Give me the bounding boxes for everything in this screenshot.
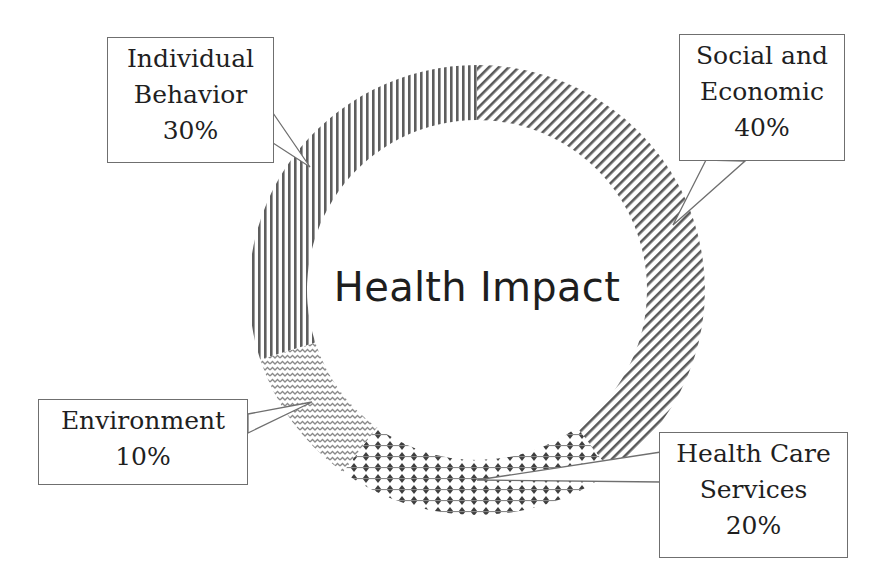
pointer-individual	[273, 113, 310, 167]
callout-percent: 30%	[108, 113, 273, 149]
callout-environment: Environment 10%	[38, 399, 248, 485]
callout-label: Economic	[680, 74, 844, 110]
callout-percent: 10%	[39, 439, 247, 475]
callout-percent: 20%	[660, 508, 847, 544]
callout-individual-behavior: Individual Behavior 30%	[107, 37, 274, 163]
callout-label: Environment	[39, 403, 247, 439]
callout-label: Behavior	[108, 77, 273, 113]
callout-label: Social and	[680, 38, 844, 74]
callout-health-care: Health Care Services 20%	[659, 432, 848, 558]
pointer-social	[673, 160, 745, 225]
callout-percent: 40%	[680, 110, 844, 146]
callout-label: Services	[660, 472, 847, 508]
callout-social-economic: Social and Economic 40%	[679, 34, 845, 161]
donut-chart: Health Impact Individual Behavior 30% So…	[0, 0, 883, 583]
center-title: Health Impact	[277, 262, 677, 312]
callout-label: Individual	[108, 41, 273, 77]
segment-individual-behavior	[249, 65, 477, 360]
callout-label: Health Care	[660, 436, 847, 472]
